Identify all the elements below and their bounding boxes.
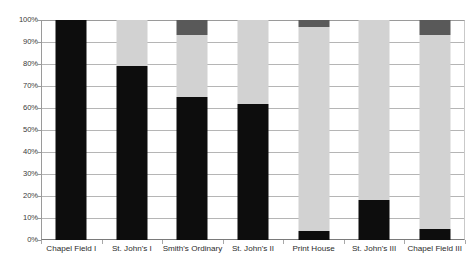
y-axis-tick-label: 60% bbox=[2, 104, 38, 112]
x-axis-tick-label: Print House bbox=[283, 244, 344, 254]
stacked-bar[interactable] bbox=[56, 20, 87, 240]
x-axis-tick-mark bbox=[102, 240, 103, 244]
x-axis-tick-label: Chapel Field III bbox=[404, 244, 465, 254]
bar-segment[interactable] bbox=[177, 20, 208, 35]
x-axis-tick-label: St. John's II bbox=[223, 244, 284, 254]
stacked-bar[interactable] bbox=[298, 20, 329, 240]
y-axis-tick-label: 30% bbox=[2, 170, 38, 178]
y-axis-tick-label: 100% bbox=[2, 16, 38, 24]
x-axis-tick-mark bbox=[162, 240, 163, 244]
x-axis-tick-mark bbox=[223, 240, 224, 244]
bar-segment[interactable] bbox=[419, 229, 450, 240]
bar-group bbox=[162, 20, 223, 240]
bar-group bbox=[344, 20, 405, 240]
bar-segment[interactable] bbox=[116, 66, 147, 240]
bar-segment[interactable] bbox=[419, 35, 450, 229]
bar-group bbox=[283, 20, 344, 240]
bar-segment[interactable] bbox=[56, 20, 87, 240]
y-axis-tick-label: 50% bbox=[2, 126, 38, 134]
bar-segment[interactable] bbox=[177, 97, 208, 240]
x-axis-tick-label: Smith's Ordinary bbox=[162, 244, 223, 254]
bars-layer bbox=[41, 20, 465, 240]
x-axis-tick-mark bbox=[465, 240, 466, 244]
x-axis-tick-mark bbox=[344, 240, 345, 244]
x-axis-tick-mark bbox=[283, 240, 284, 244]
bar-segment[interactable] bbox=[177, 35, 208, 97]
bar-segment[interactable] bbox=[359, 200, 390, 240]
chart-container: 0%10%20%30%40%50%60%70%80%90%100% Chapel… bbox=[0, 0, 473, 276]
y-axis-tick-label: 20% bbox=[2, 192, 38, 200]
bar-segment[interactable] bbox=[116, 20, 147, 66]
stacked-bar[interactable] bbox=[237, 20, 268, 240]
y-axis-tick-label: 0% bbox=[2, 236, 38, 244]
y-axis-tick-label: 80% bbox=[2, 60, 38, 68]
y-axis-tick-label: 40% bbox=[2, 148, 38, 156]
bar-group bbox=[223, 20, 284, 240]
x-axis: Chapel Field ISt. John's ISmith's Ordina… bbox=[41, 244, 465, 264]
bar-segment[interactable] bbox=[298, 27, 329, 232]
stacked-bar[interactable] bbox=[419, 20, 450, 240]
y-axis-tick-label: 10% bbox=[2, 214, 38, 222]
x-axis-tick-mark bbox=[404, 240, 405, 244]
bar-segment[interactable] bbox=[419, 20, 450, 35]
bar-group bbox=[404, 20, 465, 240]
x-axis-tick-mark bbox=[41, 240, 42, 244]
bar-group bbox=[102, 20, 163, 240]
bar-segment[interactable] bbox=[237, 20, 268, 104]
bar-group bbox=[41, 20, 102, 240]
bar-segment[interactable] bbox=[237, 104, 268, 240]
bar-segment[interactable] bbox=[298, 231, 329, 240]
x-axis-tick-label: St. John's I bbox=[102, 244, 163, 254]
bar-segment[interactable] bbox=[298, 20, 329, 27]
y-axis-tick-label: 90% bbox=[2, 38, 38, 46]
stacked-bar[interactable] bbox=[116, 20, 147, 240]
stacked-bar[interactable] bbox=[359, 20, 390, 240]
stacked-bar[interactable] bbox=[177, 20, 208, 240]
y-axis-tick-label: 70% bbox=[2, 82, 38, 90]
y-axis: 0%10%20%30%40%50%60%70%80%90%100% bbox=[0, 20, 38, 240]
bar-segment[interactable] bbox=[359, 20, 390, 200]
x-axis-tick-label: Chapel Field I bbox=[41, 244, 102, 254]
x-axis-tick-label: St. John's III bbox=[344, 244, 405, 254]
